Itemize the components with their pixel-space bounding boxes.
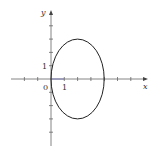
- y-axis-label: y: [40, 8, 46, 17]
- y-axis-arrow-icon: [49, 10, 53, 15]
- x-tick-label-1: 1: [62, 83, 67, 92]
- ellipse-diagram: y x 0 1 1: [0, 0, 157, 157]
- y-tick-label-1: 1: [42, 62, 47, 71]
- origin-label: 0: [43, 83, 48, 92]
- x-axis-label: x: [143, 82, 148, 91]
- coordinate-plane: y x 0 1 1: [0, 0, 157, 157]
- x-axis-arrow-icon: [143, 77, 148, 81]
